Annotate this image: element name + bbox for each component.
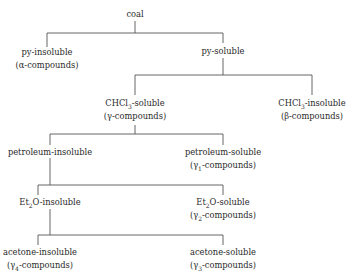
node-label: py-insoluble (16, 46, 79, 59)
edge-py-soluble-split (135, 75, 312, 95)
node-label: acetone-soluble (190, 246, 256, 259)
node-acetone-insoluble: acetone-insoluble (γ4-compounds) (3, 246, 77, 272)
edge-chcl3-soluble-split (50, 134, 223, 145)
node-label: CHCl3-insoluble (278, 97, 345, 110)
node-py-soluble: py-soluble (202, 45, 245, 58)
node-sublabel: (γ-compounds) (104, 110, 166, 123)
node-chcl3-soluble: CHCl3-soluble (γ-compounds) (104, 97, 166, 123)
node-coal: coal (126, 8, 143, 21)
node-et2o-soluble: Et2O-soluble (γ2-compounds) (190, 196, 256, 222)
node-sublabel: (γ1-compounds) (185, 159, 261, 172)
node-acetone-soluble: acetone-soluble (γ3-compounds) (190, 246, 256, 272)
connector-lines (0, 0, 353, 279)
node-et2o-insoluble: Et2O-insoluble (19, 196, 80, 209)
node-sublabel: (β-compounds) (278, 110, 345, 123)
node-sublabel: (α-compounds) (16, 59, 79, 72)
node-label: petroleum-insoluble (8, 147, 92, 157)
node-sublabel: (γ4-compounds) (3, 259, 77, 272)
node-sublabel: (γ2-compounds) (190, 209, 256, 222)
node-label: acetone-insoluble (3, 246, 77, 259)
node-sublabel: (γ3-compounds) (190, 259, 256, 272)
node-chcl3-insoluble: CHCl3-insoluble (β-compounds) (278, 97, 345, 123)
node-label: petroleum-soluble (185, 146, 261, 159)
edge-et2o-insoluble-split (38, 235, 223, 245)
node-label: CHCl3-soluble (104, 97, 166, 110)
node-label: Et2O-insoluble (19, 197, 80, 207)
node-label: py-soluble (202, 46, 245, 56)
node-petroleum-soluble: petroleum-soluble (γ1-compounds) (185, 146, 261, 172)
node-label: coal (126, 9, 143, 19)
node-petroleum-insoluble: petroleum-insoluble (8, 146, 92, 159)
edge-coal-split (47, 33, 223, 47)
edge-petroleum-insoluble-split (38, 185, 223, 195)
node-label: Et2O-soluble (190, 196, 256, 209)
node-py-insoluble: py-insoluble (α-compounds) (16, 46, 79, 72)
